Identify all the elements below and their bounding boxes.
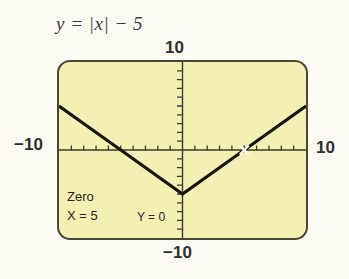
equation-caption: y = |x| − 5 (56, 13, 143, 35)
axis-label-left: −10 (14, 135, 43, 155)
readout-y-value: Y = 0 (137, 210, 165, 224)
axis-label-bottom: −10 (163, 243, 192, 263)
axis-label-right: 10 (316, 138, 335, 158)
graphing-calculator-figure: y = |x| − 5 10 −10 10 −10 Zero X = 5 Y =… (0, 0, 349, 279)
axis-label-top: 10 (165, 38, 184, 58)
readout-operation-label: Zero (67, 189, 94, 204)
readout-x-value: X = 5 (67, 208, 98, 223)
calculator-screen[interactable]: Zero X = 5 Y = 0 (57, 60, 308, 240)
